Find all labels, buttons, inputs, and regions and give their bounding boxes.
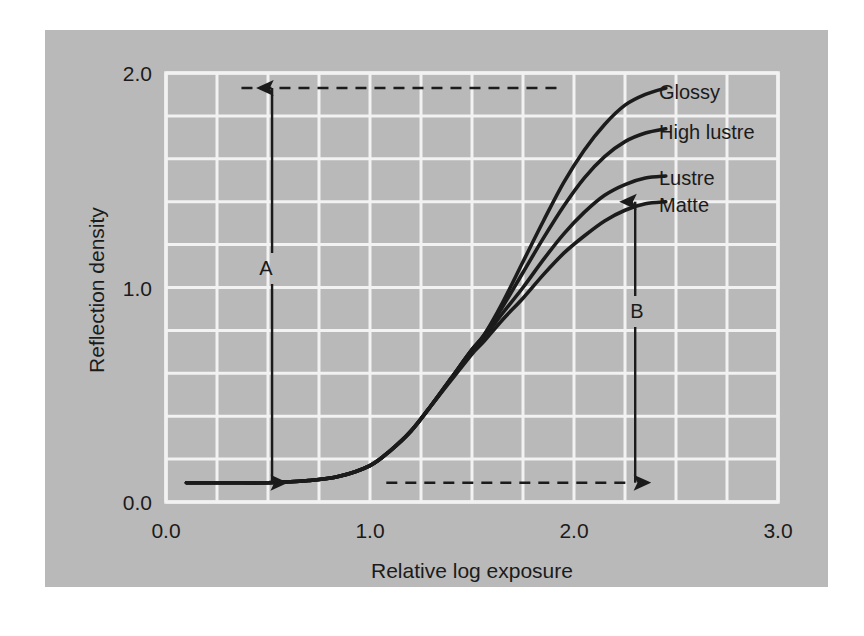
curve-label-matte: Matte: [659, 194, 709, 216]
xtick-label-1: 1.0: [355, 519, 384, 542]
curve-label-glossy: Glossy: [659, 81, 720, 103]
ytick-label-2: 2.0: [123, 62, 152, 85]
x-axis-title: Relative log exposure: [371, 559, 573, 582]
annotation-label-a: A: [259, 257, 273, 279]
ytick-label-1: 1.0: [123, 277, 152, 300]
xtick-label-3: 3.0: [763, 519, 792, 542]
xtick-label-2: 2.0: [559, 519, 588, 542]
annotation-label-b: B: [630, 300, 643, 322]
xtick-label-0: 0.0: [151, 519, 180, 542]
ytick-label-0: 0.0: [123, 491, 152, 514]
y-axis-title: Reflection density: [85, 207, 108, 373]
reflection-density-chart: A B Glossy High lustre Lustre Matte 2.0 …: [0, 0, 864, 636]
curve-label-high-lustre: High lustre: [659, 121, 755, 143]
figure-container: A B Glossy High lustre Lustre Matte 2.0 …: [0, 0, 864, 636]
curve-label-lustre: Lustre: [659, 167, 715, 189]
